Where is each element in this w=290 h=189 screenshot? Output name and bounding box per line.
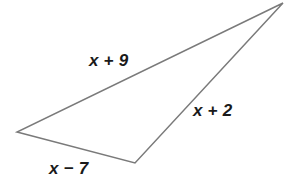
triangle-outline [17, 3, 283, 163]
triangle-figure: x + 9 x + 2 x − 7 [0, 0, 290, 189]
side-label-right: x + 2 [193, 102, 232, 119]
triangle-shape [0, 0, 290, 189]
side-label-bottom: x − 7 [49, 160, 88, 177]
side-label-top: x + 9 [89, 52, 128, 69]
